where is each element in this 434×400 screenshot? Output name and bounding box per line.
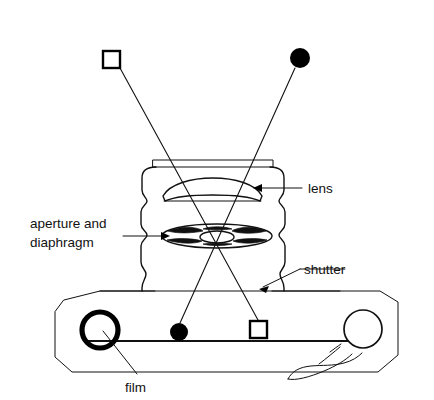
aperture-arrow-head-icon — [161, 232, 170, 240]
aperture-label-line2: diaphragm — [30, 235, 94, 250]
aperture-label-line1: aperture and — [30, 216, 107, 231]
lens-label: lens — [308, 181, 333, 196]
hand-outline — [288, 353, 362, 379]
lens-element-group — [163, 178, 262, 201]
camera-optics-diagram: lens aperture and diaphragm shutter film — [0, 0, 434, 400]
lens-barrel-group — [141, 160, 285, 291]
callout-shutter: shutter — [259, 262, 346, 293]
aperture-diaphragm-group — [162, 224, 272, 248]
barrel-right-wall — [270, 167, 285, 291]
film-label: film — [125, 380, 146, 395]
callout-aperture-diaphragm: aperture and diaphragm — [30, 216, 170, 250]
shutter-leader-diagonal — [263, 269, 300, 287]
film-leader-line — [103, 331, 137, 374]
callout-lens: lens — [253, 181, 333, 196]
object-circle-marker — [290, 48, 310, 68]
shutter-label: shutter — [304, 262, 346, 277]
finger-outline — [288, 354, 352, 380]
film-spool-right — [344, 310, 382, 348]
hand-knuckle-line — [319, 347, 340, 364]
hand-sketch-group — [288, 344, 362, 380]
barrel-left-wall — [141, 167, 156, 291]
camera-diagram-canvas: lens aperture and diaphragm shutter film — [0, 0, 434, 400]
image-square-marker — [250, 321, 267, 338]
ray-square-object-to-image — [120, 68, 258, 320]
lens-element — [163, 178, 262, 201]
diaphragm-blade-bottom — [203, 243, 232, 245]
image-circle-marker — [170, 323, 188, 341]
film-transport-group — [82, 310, 382, 348]
object-square-marker — [103, 51, 120, 68]
